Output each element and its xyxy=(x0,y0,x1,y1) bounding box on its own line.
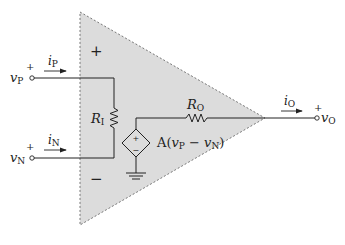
terminal-circle-icon xyxy=(30,156,34,160)
io-label: iO xyxy=(284,94,295,109)
vo-output-terminal[interactable] xyxy=(265,116,319,120)
ip-label: iP xyxy=(48,54,58,69)
op-amp-circuit-diagram: + − + vP iP + vN iN RI + − A(vP − vN) RO xyxy=(0,0,345,245)
vp-label: vP xyxy=(10,70,23,86)
vp-polarity: + xyxy=(26,61,34,72)
triangle-minus-sign: − xyxy=(90,170,103,188)
in-label: iN xyxy=(48,133,60,148)
vn-label: vN xyxy=(10,150,25,166)
terminal-circle-icon xyxy=(30,76,34,80)
source-minus: − xyxy=(133,146,140,155)
source-plus: + xyxy=(133,134,140,143)
triangle-plus-sign: + xyxy=(90,42,103,60)
vn-polarity: + xyxy=(26,141,34,152)
terminal-circle-icon xyxy=(315,116,319,120)
vo-label: vO xyxy=(321,110,336,126)
